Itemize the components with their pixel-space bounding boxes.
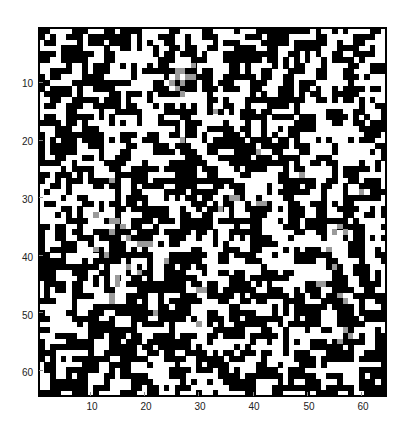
x-tick-label-30: 30 bbox=[188, 401, 212, 412]
x-tick-label-40: 40 bbox=[242, 401, 266, 412]
x-tick-label-10: 10 bbox=[80, 401, 104, 412]
y-tick-label-50: 50 bbox=[7, 310, 33, 321]
y-tick-label-30: 30 bbox=[7, 194, 33, 205]
y-tick-label-10: 10 bbox=[7, 78, 33, 89]
y-tick-label-60: 60 bbox=[7, 367, 33, 378]
figure: 10 20 30 40 50 60 10 20 30 40 50 60 bbox=[0, 0, 410, 429]
x-tick-label-20: 20 bbox=[134, 401, 158, 412]
y-tick-label-40: 40 bbox=[7, 252, 33, 263]
x-tick-label-60: 60 bbox=[351, 401, 375, 412]
heatmap-plot bbox=[0, 0, 410, 429]
x-tick-label-50: 50 bbox=[297, 401, 321, 412]
y-tick-label-20: 20 bbox=[7, 136, 33, 147]
